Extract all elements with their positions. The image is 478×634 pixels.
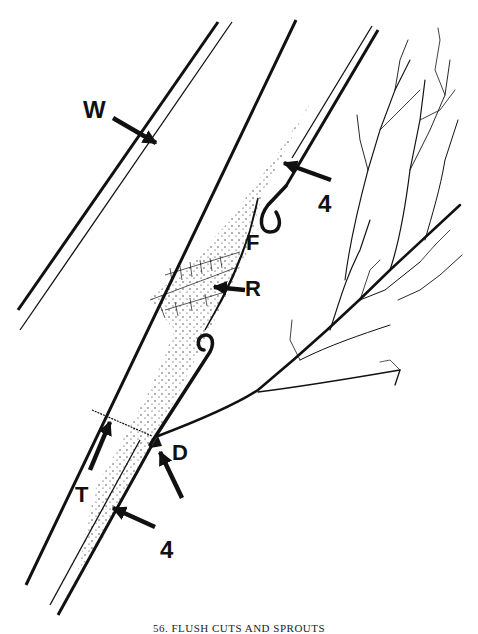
figure-caption: 56. FLUSH CUTS AND SPROUTS bbox=[0, 622, 478, 634]
label-4-bottom: 4 bbox=[160, 536, 174, 563]
label-r: R bbox=[245, 276, 261, 301]
flush-cut-diagram: W 4 F R D T 4 bbox=[0, 0, 478, 634]
branch-main bbox=[158, 28, 462, 436]
label-4-top: 4 bbox=[318, 190, 332, 217]
label-d: D bbox=[172, 440, 188, 465]
label-f: F bbox=[246, 230, 259, 255]
sprout-hook-top bbox=[261, 186, 286, 232]
label-w: W bbox=[83, 96, 106, 123]
label-t: T bbox=[75, 482, 89, 507]
